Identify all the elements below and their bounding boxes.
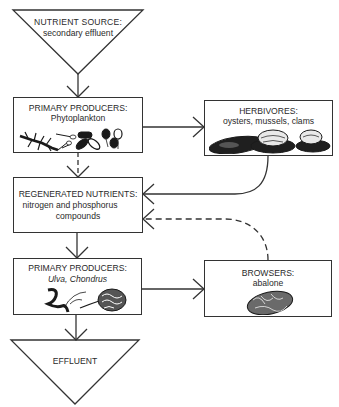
regenerated-nutrients-title: REGENERATED NUTRIENTS: [14, 189, 142, 200]
phytoplankton-subtitle: Phytoplankton [14, 113, 142, 124]
regenerated-nutrients-line2: compounds [14, 211, 142, 222]
edge-herbivores-to-regenerated [143, 156, 268, 194]
browsers-box: BROWSERS: abalone [204, 260, 332, 317]
edge-browsers-to-regenerated [143, 219, 268, 260]
nutrient-source-subtitle: secondary effluent [13, 28, 143, 39]
phytoplankton-box: PRIMARY PRODUCERS: Phytoplankton [13, 97, 143, 153]
browsers-subtitle: abalone [205, 278, 331, 289]
shellfish-illustration-icon [209, 128, 331, 154]
abalone-illustration-icon [245, 290, 295, 315]
herbivores-subtitle: oysters, mussels, clams [205, 116, 332, 127]
seaweed-title: PRIMARY PRODUCERS: [14, 263, 141, 274]
herbivores-box: HERBIVORES: oysters, mussels, clams [204, 100, 333, 156]
seaweed-illustration-icon [42, 286, 142, 314]
regenerated-nutrients-box: REGENERATED NUTRIENTS: nitrogen and phos… [13, 177, 143, 233]
seaweed-box: PRIMARY PRODUCERS: Ulva, Chondrus [13, 258, 142, 315]
effluent-title: EFFLUENT [11, 356, 139, 367]
seaweed-subtitle: Ulva, Chondrus [14, 274, 141, 285]
effluent-triangle [11, 340, 139, 404]
nutrient-source-title: NUTRIENT SOURCE: [13, 17, 143, 28]
regenerated-nutrients-line1: nitrogen and phosphorus [6, 200, 134, 211]
phytoplankton-illustration-icon [18, 126, 140, 152]
